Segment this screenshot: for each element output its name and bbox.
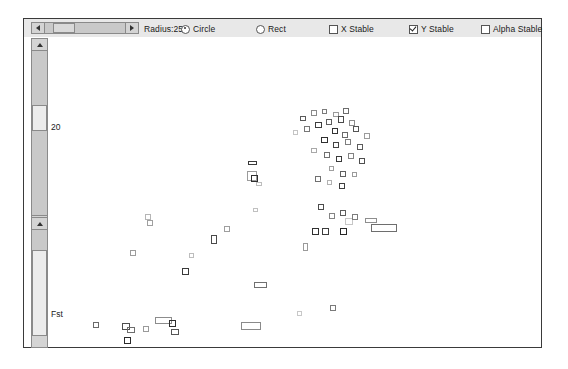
- data-point-marker: [332, 128, 338, 134]
- scrollbar-bottom-up-button[interactable]: [32, 218, 47, 230]
- checkbox-alpha-stable-label: Alpha Stable: [493, 24, 542, 34]
- data-point-marker: [304, 126, 310, 132]
- radio-rect[interactable]: Rect: [256, 24, 286, 34]
- data-point-marker: [365, 218, 377, 223]
- data-point-marker: [357, 144, 363, 150]
- vertical-scrollbar-bottom[interactable]: [31, 217, 48, 348]
- data-point-marker: [326, 119, 332, 125]
- data-point-marker: [333, 142, 339, 148]
- data-point-marker: [371, 224, 397, 232]
- checkbox-x-stable[interactable]: X Stable: [329, 24, 374, 34]
- applet-root: Radius:25 Circle Rect X Stable Y Stable …: [0, 0, 568, 369]
- data-point-marker: [303, 243, 308, 251]
- radius-value-label: Radius:25: [144, 24, 183, 34]
- data-point-marker: [336, 156, 342, 162]
- data-point-marker: [182, 268, 189, 275]
- arrow-left-icon: [36, 25, 40, 31]
- slider-left-arrow-button[interactable]: [32, 23, 45, 33]
- window-frame: Radius:25 Circle Rect X Stable Y Stable …: [23, 18, 542, 348]
- data-point-marker: [364, 133, 370, 139]
- scrollbar-bottom-down-button[interactable]: [32, 335, 47, 347]
- vertical-scrollbar-top[interactable]: [31, 38, 48, 228]
- data-point-marker: [312, 228, 319, 235]
- data-point-marker: [293, 130, 298, 135]
- scatter-plot-canvas[interactable]: [93, 38, 540, 347]
- data-point-marker: [127, 327, 135, 333]
- data-point-marker: [338, 116, 344, 123]
- data-point-marker: [311, 110, 317, 116]
- data-point-marker: [124, 337, 131, 344]
- data-point-marker: [300, 116, 306, 121]
- scrollbar-top-thumb[interactable]: [32, 105, 47, 131]
- data-point-marker: [321, 137, 328, 143]
- checkbox-x-stable-box-icon: [329, 25, 338, 34]
- checkbox-alpha-stable[interactable]: Alpha Stable: [481, 24, 542, 34]
- data-point-marker: [359, 158, 365, 164]
- scrollbar-bottom-thumb[interactable]: [32, 250, 47, 336]
- slider-right-arrow-button[interactable]: [125, 23, 138, 33]
- data-point-marker: [352, 214, 358, 220]
- data-point-marker: [315, 176, 321, 182]
- radio-rect-label: Rect: [268, 24, 286, 34]
- checkbox-x-stable-label: X Stable: [341, 24, 374, 34]
- data-point-marker: [254, 282, 267, 288]
- data-point-marker: [251, 175, 258, 182]
- arrow-up-icon: [37, 222, 43, 226]
- checkbox-y-stable-label: Y Stable: [421, 24, 454, 34]
- data-point-marker: [297, 311, 302, 316]
- data-point-marker: [315, 122, 322, 128]
- arrow-right-icon: [130, 25, 134, 31]
- data-point-marker: [322, 228, 329, 235]
- data-point-marker: [311, 148, 317, 153]
- radio-circle-label: Circle: [193, 24, 215, 34]
- data-point-marker: [169, 320, 176, 327]
- slider-track[interactable]: [45, 23, 125, 33]
- data-point-marker: [327, 180, 332, 185]
- data-point-marker: [143, 326, 149, 332]
- checkbox-y-stable[interactable]: Y Stable: [409, 24, 454, 34]
- data-point-marker: [93, 322, 99, 328]
- data-point-marker: [339, 183, 345, 189]
- data-point-marker: [147, 220, 153, 226]
- data-point-marker: [340, 210, 346, 216]
- data-point-marker: [224, 226, 230, 232]
- toolbar: Radius:25 Circle Rect X Stable Y Stable …: [24, 19, 541, 37]
- radio-circle-indicator-icon: [181, 25, 190, 34]
- data-point-marker: [171, 329, 179, 335]
- radio-rect-indicator-icon: [256, 25, 265, 34]
- data-point-marker: [353, 126, 359, 132]
- data-point-marker: [340, 228, 347, 235]
- data-point-marker: [248, 161, 257, 165]
- radio-circle[interactable]: Circle: [181, 24, 215, 34]
- data-point-marker: [340, 171, 346, 177]
- scrollbar-top-up-button[interactable]: [32, 39, 47, 51]
- data-point-marker: [189, 253, 194, 258]
- data-point-marker: [343, 108, 349, 114]
- checkbox-alpha-stable-box-icon: [481, 25, 490, 34]
- data-point-marker: [256, 182, 262, 186]
- data-point-marker: [241, 322, 261, 330]
- data-point-marker: [318, 204, 324, 210]
- data-point-marker: [324, 152, 330, 158]
- data-point-marker: [329, 166, 334, 171]
- slider-thumb[interactable]: [53, 23, 75, 33]
- data-point-marker: [342, 132, 348, 138]
- data-point-marker: [329, 213, 335, 219]
- data-point-marker: [330, 305, 336, 311]
- radius-slider[interactable]: [31, 22, 139, 34]
- data-point-marker: [253, 208, 258, 212]
- scroll-top-value-label: 20: [51, 122, 60, 132]
- data-point-marker: [130, 250, 136, 256]
- data-point-marker: [211, 235, 217, 244]
- data-point-marker: [352, 172, 357, 177]
- data-point-marker: [345, 139, 351, 145]
- arrow-up-icon: [37, 43, 43, 47]
- scroll-bottom-value-label: Fst: [51, 309, 63, 319]
- data-point-marker: [348, 153, 354, 159]
- checkbox-y-stable-check-icon: [409, 25, 418, 34]
- data-point-marker: [322, 109, 327, 114]
